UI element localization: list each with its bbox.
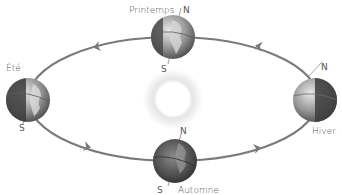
season-label-hiver: Hiver xyxy=(312,126,336,136)
south-pole-label: S xyxy=(19,123,25,133)
south-pole-label: S xyxy=(157,185,163,195)
season-label-automne: Automne xyxy=(178,185,219,195)
south-pole-label: S xyxy=(161,64,167,74)
season-label-printemps: Printemps xyxy=(129,5,175,15)
earth-globe-printemps-icon xyxy=(151,8,195,64)
earth-globe-ete-icon xyxy=(6,78,50,124)
north-pole-label: N xyxy=(183,5,190,15)
seasons-orbit-diagram: Printemps N S Été S N Hiver N S Automne xyxy=(0,0,342,195)
sun-icon xyxy=(141,67,205,131)
season-label-ete: Été xyxy=(6,62,21,73)
earth-globe-hiver-icon xyxy=(293,62,337,122)
north-pole-label: N xyxy=(180,126,187,136)
earth-globe-automne-icon xyxy=(153,134,197,186)
north-pole-label: N xyxy=(321,62,328,72)
